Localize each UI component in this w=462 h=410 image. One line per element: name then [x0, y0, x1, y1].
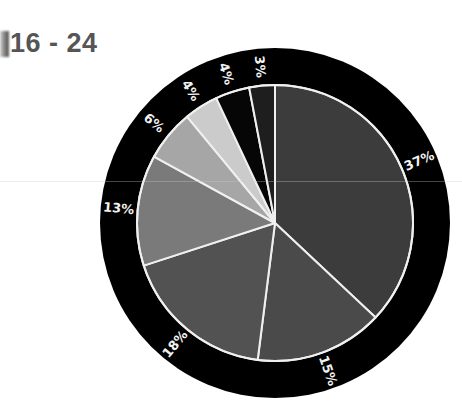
slice-percent-label: 3% [252, 55, 269, 78]
scan-artifact-line [0, 181, 462, 182]
pie-chart-svg: 37%15%18%13%6%4%4%3% [0, 0, 462, 410]
pie-slices [137, 85, 413, 361]
slice-percent-label: 13% [103, 199, 135, 217]
pie-chart: 37%15%18%13%6%4%4%3% [0, 0, 462, 410]
